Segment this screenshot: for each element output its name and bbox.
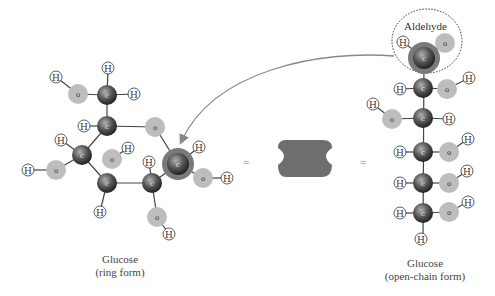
svg-text:c: c xyxy=(422,55,426,63)
svg-text:H: H xyxy=(369,100,377,110)
ring-caption-title: Glucose xyxy=(70,253,170,266)
oxygen-atom: o xyxy=(145,117,165,137)
hydrogen-atom: H xyxy=(143,156,155,168)
svg-text:c: c xyxy=(421,210,425,218)
svg-text:H: H xyxy=(463,167,471,177)
svg-text:H: H xyxy=(396,148,404,158)
hydrogen-atom: H xyxy=(443,113,455,125)
hydrogen-atom: H xyxy=(462,133,474,145)
glucose-diagram: o o o o o o c c c c c c H H H H H H H H … xyxy=(0,0,495,296)
svg-text:H: H xyxy=(396,179,404,189)
hydrogen-atom: H xyxy=(394,146,406,158)
svg-text:o: o xyxy=(447,149,451,157)
svg-text:H: H xyxy=(96,208,104,218)
svg-text:H: H xyxy=(124,144,132,154)
oxygen-atom: o xyxy=(435,33,455,53)
svg-text:H: H xyxy=(223,174,231,184)
carbon-atom: c xyxy=(413,47,435,69)
hydrogen-atom: H xyxy=(367,98,379,110)
oxygen-atom: o xyxy=(68,84,88,104)
svg-text:H: H xyxy=(465,74,473,84)
svg-text:c: c xyxy=(421,85,425,93)
hydrogen-atom: H xyxy=(462,196,474,208)
oxygen-atom: o xyxy=(437,79,457,99)
svg-text:H: H xyxy=(104,64,112,74)
svg-text:o: o xyxy=(76,91,80,99)
hydrogen-atom: H xyxy=(394,177,406,189)
svg-text:c: c xyxy=(421,115,425,123)
oxygen-atom: o xyxy=(102,149,122,169)
hydrogen-atom: H xyxy=(394,83,406,95)
hydrogen-atom: H xyxy=(128,88,140,100)
oxygen-atom: o xyxy=(439,142,459,162)
glucose-shape-icon xyxy=(278,140,332,177)
svg-text:o: o xyxy=(54,167,58,175)
hydrogen-atom: H xyxy=(122,142,134,154)
svg-text:H: H xyxy=(195,143,203,153)
svg-text:H: H xyxy=(396,209,404,219)
svg-text:H: H xyxy=(24,166,32,176)
svg-text:o: o xyxy=(155,214,159,222)
svg-text:H: H xyxy=(80,122,88,132)
svg-text:c: c xyxy=(105,123,109,131)
chain-caption-title: Glucose xyxy=(370,257,480,270)
hydrogen-atom: H xyxy=(415,233,427,245)
svg-text:H: H xyxy=(464,198,472,208)
svg-text:c: c xyxy=(150,180,154,188)
carbon-atom: c xyxy=(142,173,162,193)
carbon-atom: c xyxy=(413,78,433,98)
oxygen-atom: o xyxy=(439,173,459,193)
svg-text:o: o xyxy=(390,116,394,124)
hydrogen-atom: H xyxy=(55,134,67,146)
hydrogen-atom: H xyxy=(78,120,90,132)
hydrogen-atom: H xyxy=(163,228,175,240)
svg-text:H: H xyxy=(464,135,472,145)
svg-text:H: H xyxy=(57,136,65,146)
svg-text:o: o xyxy=(153,124,157,132)
carbon-atom: c xyxy=(413,203,433,223)
hydrogen-atom: H xyxy=(22,164,34,176)
oxygen-atom: o xyxy=(46,160,66,180)
svg-text:o: o xyxy=(443,40,447,48)
carbon-atom: c xyxy=(97,116,117,136)
svg-text:H: H xyxy=(145,158,153,168)
oxygen-atom: o xyxy=(147,207,167,227)
carbon-atom: c xyxy=(413,108,433,128)
hydrogen-atom: H xyxy=(193,141,205,153)
hydrogen-atom: H xyxy=(397,36,409,48)
hydrogen-atom: H xyxy=(394,207,406,219)
svg-text:H: H xyxy=(52,73,60,83)
equals-sign-left: = xyxy=(243,156,249,168)
svg-text:H: H xyxy=(445,115,453,125)
reaction-arrow xyxy=(182,55,394,140)
aldehyde-label: Aldehyde xyxy=(404,20,447,32)
svg-text:c: c xyxy=(80,152,84,160)
carbon-atom: c xyxy=(413,173,433,193)
hydrogen-atom: H xyxy=(102,62,114,74)
carbon-atom: c xyxy=(167,153,189,175)
svg-text:o: o xyxy=(445,86,449,94)
carbon-atom: c xyxy=(97,173,117,193)
hydrogen-atom: H xyxy=(463,72,475,84)
svg-text:c: c xyxy=(176,161,180,169)
hydrogen-atom: H xyxy=(94,206,106,218)
svg-text:o: o xyxy=(447,209,451,217)
hydrogen-atom: H xyxy=(221,172,233,184)
oxygen-atom: o xyxy=(382,109,402,129)
svg-text:o: o xyxy=(201,175,205,183)
svg-text:c: c xyxy=(105,92,109,100)
svg-text:o: o xyxy=(447,180,451,188)
open-chain-caption: Glucose (open-chain form) xyxy=(370,257,480,283)
ring-form-caption: Glucose (ring form) xyxy=(70,253,170,279)
ring-caption-subtitle: (ring form) xyxy=(70,266,170,279)
carbon-atom: c xyxy=(72,145,92,165)
svg-text:H: H xyxy=(396,85,404,95)
equals-sign-right: = xyxy=(360,156,366,168)
svg-text:H: H xyxy=(399,38,407,48)
carbon-atom: c xyxy=(97,85,117,105)
svg-text:c: c xyxy=(421,149,425,157)
svg-text:H: H xyxy=(130,90,138,100)
chain-caption-subtitle: (open-chain form) xyxy=(370,270,480,283)
oxygen-atom: o xyxy=(439,202,459,222)
svg-text:c: c xyxy=(105,180,109,188)
